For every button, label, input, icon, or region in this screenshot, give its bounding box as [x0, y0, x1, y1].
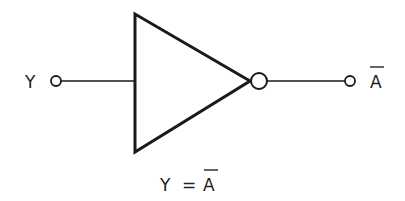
- caption-equals: =: [182, 175, 196, 195]
- caption-equation: Y = A: [159, 170, 218, 195]
- output-terminal-icon: [345, 76, 355, 86]
- buffer-triangle-icon: [135, 14, 250, 152]
- caption-rhs: A: [203, 175, 215, 195]
- inverter-diagram: Y A Y = A: [0, 0, 405, 201]
- caption-lhs: Y: [159, 175, 171, 195]
- input-label: Y: [24, 72, 36, 92]
- output-label: A: [370, 72, 382, 92]
- inversion-bubble-icon: [251, 73, 267, 89]
- input-terminal-icon: [51, 76, 61, 86]
